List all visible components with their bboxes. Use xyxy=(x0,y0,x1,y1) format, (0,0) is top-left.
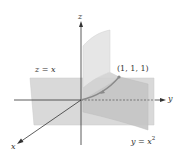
y-axis-label: y xyxy=(168,95,173,103)
cylinder-label-lhs: y xyxy=(131,137,136,146)
diagram-canvas: z y x z = x (1, 1, 1) y = x2 xyxy=(0,0,182,161)
x-axis-arrowhead xyxy=(17,139,24,145)
plane-label-lhs: z xyxy=(35,65,39,74)
x-axis-label: x xyxy=(11,143,16,151)
plane-label: z = x xyxy=(35,66,56,74)
point-1-1-1 xyxy=(117,75,120,78)
point-label: (1, 1, 1) xyxy=(117,65,149,73)
plane-label-rhs: x xyxy=(51,65,56,74)
cylinder-label-exponent: 2 xyxy=(152,135,156,141)
y-axis-arrowhead xyxy=(160,98,166,102)
z-axis-arrowhead xyxy=(79,21,83,27)
cylinder-label: y = x2 xyxy=(131,136,155,146)
z-axis-label: z xyxy=(78,13,82,21)
